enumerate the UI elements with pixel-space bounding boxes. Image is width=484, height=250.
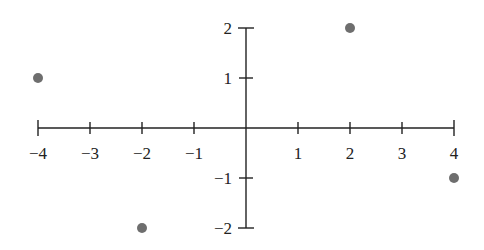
data-point bbox=[345, 23, 355, 33]
x-tick-label: 4 bbox=[450, 144, 459, 163]
x-tick-label: −3 bbox=[81, 144, 99, 163]
y-tick-label: −2 bbox=[214, 219, 232, 238]
axes bbox=[38, 28, 454, 228]
y-tick-label: 1 bbox=[224, 69, 233, 88]
scatter-chart: −4−3−2−11234 21−1−2 bbox=[0, 0, 484, 250]
y-tick-label: −1 bbox=[214, 169, 232, 188]
data-point bbox=[33, 73, 43, 83]
x-tick-label: 1 bbox=[294, 144, 303, 163]
y-tick-label: 2 bbox=[224, 19, 233, 38]
x-tick-label: −1 bbox=[185, 144, 203, 163]
x-axis-ticks: −4−3−2−11234 bbox=[29, 120, 459, 163]
x-tick-label: 2 bbox=[346, 144, 355, 163]
x-tick-label: 3 bbox=[398, 144, 407, 163]
x-tick-label: −4 bbox=[29, 144, 48, 163]
data-point bbox=[449, 173, 459, 183]
data-point bbox=[137, 223, 147, 233]
x-tick-label: −2 bbox=[133, 144, 151, 163]
